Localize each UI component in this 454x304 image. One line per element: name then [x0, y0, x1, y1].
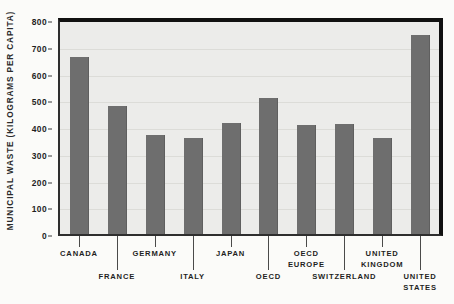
x-axis-category-label: ITALY: [180, 272, 205, 283]
x-axis-category-label-line: EUROPE: [288, 260, 325, 271]
x-axis-category-label-line: CANADA: [60, 249, 98, 260]
x-axis-category-label-line: STATES: [403, 283, 437, 294]
bar: [297, 125, 316, 234]
x-axis-category-label: JAPAN: [216, 249, 245, 260]
x-axis-category-label-line: UNITED: [403, 272, 437, 283]
x-axis-category-label-line: OECD: [288, 249, 325, 260]
y-axis-tick-mark: [48, 129, 52, 130]
x-axis-category-label-line: KINGDOM: [361, 260, 403, 271]
y-axis-tick-label: 600: [32, 71, 47, 81]
y-axis-tick-mark: [48, 22, 52, 23]
x-axis-category-label: FRANCE: [99, 272, 135, 283]
y-axis-title-text: MUNICIPAL WASTE (KILOGRAMS PER CAPITA): [7, 10, 16, 229]
bar: [411, 35, 430, 234]
bar: [184, 138, 203, 234]
y-axis-tick-mark: [48, 155, 52, 156]
bar: [335, 124, 354, 234]
x-axis-category-label-line: UNITED: [361, 249, 403, 260]
x-axis-category-label: UNITEDSTATES: [403, 272, 437, 293]
x-axis-category-label: UNITEDKINGDOM: [361, 249, 403, 270]
y-axis-tick-label: 700: [32, 44, 47, 54]
plot-area: [58, 18, 443, 236]
bars-layer: [60, 22, 439, 234]
x-axis-category-label-line: JAPAN: [216, 249, 245, 260]
bar: [146, 135, 165, 234]
x-axis-category-label-line: SWITZERLAND: [312, 272, 376, 283]
x-axis-category-labels: CANADAFRANCEGERMANYITALYJAPANOECDOECDEUR…: [58, 236, 443, 302]
y-axis-tick-label: 100: [32, 204, 47, 214]
bar: [108, 106, 127, 234]
x-axis-category-label-line: GERMANY: [133, 249, 177, 260]
bar-chart-figure: MUNICIPAL WASTE (KILOGRAMS PER CAPITA) 0…: [0, 0, 454, 304]
bar: [222, 123, 241, 234]
x-axis-category-label: OECD: [256, 272, 281, 283]
y-axis-tick-labels: 0100200300400500600700800: [22, 15, 52, 235]
bar: [70, 57, 89, 234]
y-axis-tick-mark: [48, 209, 52, 210]
y-axis-tick-label: 800: [32, 17, 47, 27]
x-axis-category-label-line: ITALY: [180, 272, 205, 283]
y-axis-tick-label: 400: [32, 124, 47, 134]
x-axis-category-label: SWITZERLAND: [312, 272, 376, 283]
x-axis-category-label: CANADA: [60, 249, 98, 260]
x-axis-category-label-line: FRANCE: [99, 272, 135, 283]
bar: [373, 138, 392, 234]
y-axis-tick-label: 500: [32, 97, 47, 107]
y-axis-title: MUNICIPAL WASTE (KILOGRAMS PER CAPITA): [0, 0, 22, 240]
y-axis-tick-mark: [48, 102, 52, 103]
y-axis-tick-label: 300: [32, 151, 47, 161]
y-axis-tick-label: 200: [32, 178, 47, 188]
x-axis-category-label-line: OECD: [256, 272, 281, 283]
y-axis-tick-mark: [48, 236, 52, 237]
y-axis-tick-mark: [48, 48, 52, 49]
y-axis-tick-label: 0: [42, 231, 47, 241]
x-axis-category-label: GERMANY: [133, 249, 177, 260]
y-axis-tick-mark: [48, 75, 52, 76]
x-axis-category-label: OECDEUROPE: [288, 249, 325, 270]
y-axis-tick-mark: [48, 182, 52, 183]
bar: [259, 98, 278, 234]
